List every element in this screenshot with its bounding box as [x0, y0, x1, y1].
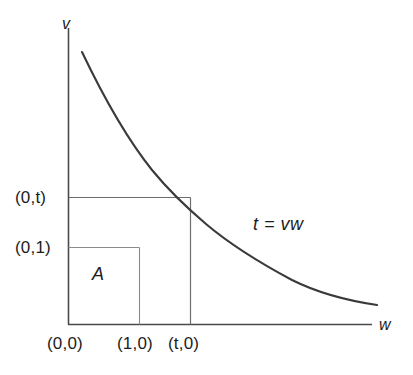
x-tick-label-origin: (0,0)	[47, 334, 83, 354]
x-tick-label-one: (1,0)	[117, 334, 153, 354]
y-tick-label-one: (0,1)	[15, 238, 51, 258]
region-label-a: A	[92, 264, 104, 285]
diagram-canvas	[0, 0, 413, 375]
hyperbola-diagram: v w (0,t) (0,1) (0,0) (1,0) (t,0) A t = …	[0, 0, 413, 375]
hyperbola-curve	[82, 52, 377, 305]
x-tick-label-t: (t,0)	[168, 334, 199, 354]
v-axis-label: v	[62, 15, 70, 33]
curve-equation-label: t = vw	[253, 214, 304, 235]
w-axis-label: w	[379, 316, 391, 334]
y-tick-label-t: (0,t)	[15, 188, 46, 208]
